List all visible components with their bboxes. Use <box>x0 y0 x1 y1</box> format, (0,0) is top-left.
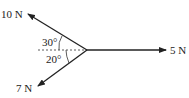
angle-arc-20 <box>66 50 69 63</box>
force-diagram: 10 N 5 N 7 N 30° 20° <box>0 0 189 98</box>
angle-label-30: 30° <box>42 36 57 48</box>
force-label-10n: 10 N <box>1 8 23 20</box>
angle-arc-30 <box>59 36 62 50</box>
force-label-7n: 7 N <box>16 82 32 94</box>
angle-label-20: 20° <box>46 53 61 65</box>
force-label-5n: 5 N <box>170 44 186 56</box>
force-arrow-10n <box>28 14 87 50</box>
